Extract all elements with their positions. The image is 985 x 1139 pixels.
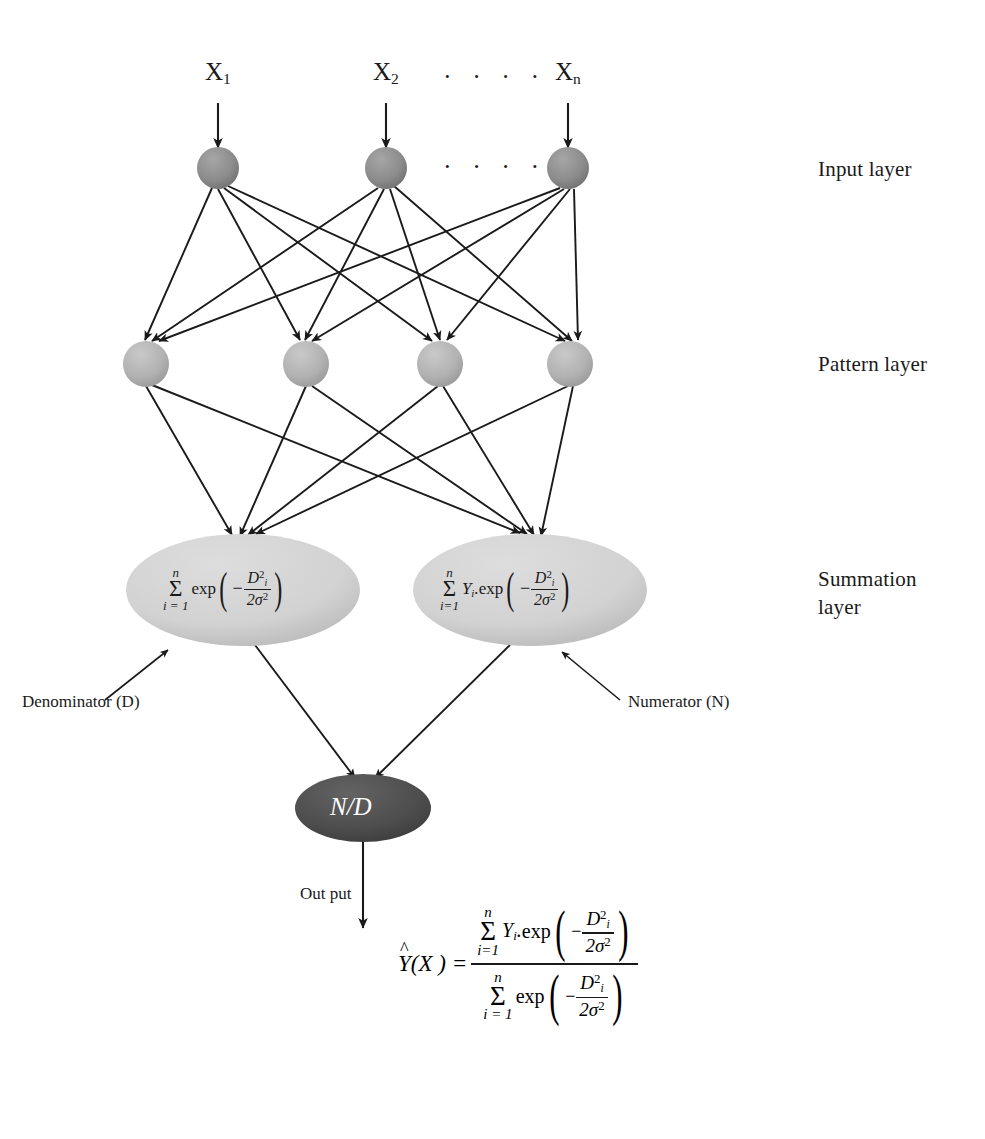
- equals-sign: =: [452, 951, 468, 976]
- input-to-pattern-edges: [145, 186, 578, 341]
- minus-sign: −: [571, 921, 581, 942]
- annotation-numerator: Numerator (N): [628, 692, 730, 712]
- exp-function: exp: [516, 985, 545, 1008]
- input-label-x2: X2: [373, 58, 399, 88]
- left-paren-icon: (: [549, 974, 559, 1018]
- figure-canvas: X1 X2 Xn · · · · · · · · Input layer Pat…: [0, 0, 985, 1139]
- annotation-denominator: Denominator (D): [22, 692, 140, 712]
- frac-denominator-symbol: 2σ: [585, 934, 604, 955]
- frac-numerator-sub: i: [607, 918, 610, 931]
- output-fraction-denominator: n Σ i = 1 exp ( − D2i 2σ2 ): [477, 970, 632, 1023]
- minus-sign: −: [565, 986, 575, 1007]
- input-label-xn: Xn: [555, 58, 581, 88]
- annotation-leaders: [105, 650, 620, 700]
- pattern-node-4: [547, 341, 593, 387]
- input-node-2: [365, 147, 407, 189]
- annotation-output: Out put: [300, 884, 351, 904]
- input-label-x1: X1: [205, 58, 231, 88]
- frac-numerator-symbol: D: [580, 972, 594, 993]
- layer-label-summation-line1: Summation: [818, 567, 917, 592]
- output-formula-lhs: ^Y(X ) =: [398, 951, 467, 977]
- exponent-fraction: D2i 2σ2: [576, 972, 607, 1020]
- ellipsis-top: · · · ·: [443, 62, 546, 92]
- summation-node-numerator: [413, 534, 647, 646]
- pattern-node-1: [123, 341, 169, 387]
- layer-label-input: Input layer: [818, 157, 912, 182]
- layer-label-pattern: Pattern layer: [818, 352, 927, 377]
- output-fraction-numerator: n Σ i=1 Yi. exp ( − D2i 2σ2: [471, 905, 638, 958]
- layer-label-summation-line2: layer: [818, 595, 861, 620]
- sigma-icon: Σ: [490, 985, 506, 1008]
- frac-denominator-sup: 2: [604, 934, 610, 949]
- division-node-label: N/D: [330, 793, 372, 821]
- frac-numerator-sub: i: [600, 982, 603, 995]
- summation-node-denominator: [126, 534, 360, 646]
- pattern-node-2: [283, 341, 329, 387]
- output-formula: ^Y(X ) = n Σ i=1 Yi. exp ( − D2i: [398, 905, 638, 1022]
- summation-to-division-edges: [255, 645, 510, 778]
- pattern-to-summation-edges: [146, 385, 573, 536]
- hat-accent: ^: [400, 939, 409, 960]
- ellipsis-middle: · · · ·: [443, 152, 546, 182]
- exp-function: exp: [522, 920, 551, 943]
- output-fraction: n Σ i=1 Yi. exp ( − D2i 2σ2: [471, 905, 638, 1022]
- pattern-layer-nodes: [123, 341, 593, 387]
- input-node-n: [547, 147, 589, 189]
- summation-layer-nodes: [126, 534, 647, 646]
- right-paren-icon: ): [618, 910, 628, 954]
- frac-denominator-symbol: 2σ: [579, 999, 598, 1020]
- frac-numerator-symbol: D: [586, 907, 600, 928]
- sigma-icon: Σ: [480, 920, 496, 943]
- sigma-lower-limit: i=1: [477, 943, 499, 958]
- exponent-fraction: D2i 2σ2: [582, 908, 613, 956]
- input-node-1: [197, 147, 239, 189]
- frac-denominator-sup: 2: [598, 998, 604, 1013]
- input-feed-arrows: [218, 103, 568, 148]
- left-paren-icon: (: [555, 910, 565, 954]
- pattern-node-3: [417, 341, 463, 387]
- right-paren-icon: ): [612, 974, 622, 1018]
- y-coefficient: Yi.: [502, 919, 522, 944]
- sigma-lower-limit: i = 1: [483, 1007, 512, 1022]
